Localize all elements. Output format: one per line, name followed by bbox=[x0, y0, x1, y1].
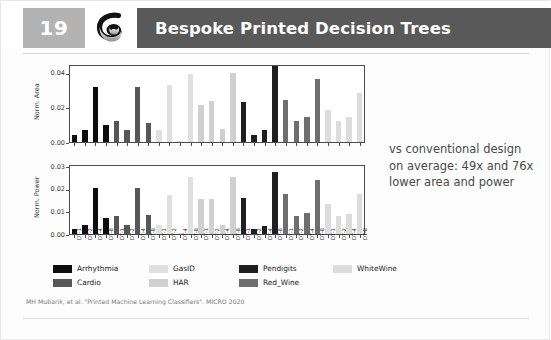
header-divider bbox=[23, 53, 529, 54]
legend-swatch bbox=[149, 279, 168, 287]
legend-label: Arrhythmia bbox=[77, 264, 118, 273]
x-tick-mark bbox=[317, 143, 318, 146]
x-tick-mark bbox=[254, 235, 255, 238]
legend-swatch bbox=[239, 279, 258, 287]
bar bbox=[315, 79, 320, 142]
y-tick-mark bbox=[66, 190, 69, 191]
bar bbox=[230, 73, 235, 142]
x-tick-mark bbox=[117, 143, 118, 146]
x-tick-mark bbox=[254, 143, 255, 146]
slide-header: 19 Bespoke Printed Decision Trees bbox=[1, 1, 551, 48]
y-tick-mark bbox=[66, 108, 69, 109]
x-tick-mark bbox=[265, 143, 266, 146]
bar bbox=[304, 117, 309, 142]
legend-item: Red_Wine bbox=[239, 277, 299, 288]
x-tick-mark bbox=[286, 235, 287, 238]
bar bbox=[188, 74, 193, 142]
x-tick-mark bbox=[180, 235, 181, 238]
x-tick-mark bbox=[74, 143, 75, 146]
bar bbox=[272, 172, 277, 234]
y-tick-mark bbox=[66, 235, 69, 236]
legend-label: GasID bbox=[173, 264, 195, 273]
x-tick-mark bbox=[85, 143, 86, 146]
x-tick-mark bbox=[95, 143, 96, 146]
x-tick-mark bbox=[222, 143, 223, 146]
charts-container: Norm. Area0.000.020.04Norm. Power0.000.0… bbox=[25, 61, 375, 261]
bar bbox=[325, 110, 330, 142]
bar bbox=[167, 85, 172, 142]
legend-item: GasID bbox=[149, 263, 195, 274]
x-tick-mark bbox=[328, 235, 329, 238]
x-tick-label: DT-2 bbox=[171, 228, 177, 240]
x-tick-mark bbox=[275, 143, 276, 146]
x-tick-mark bbox=[201, 235, 202, 238]
summary-note: vs conventional design on average: 49x a… bbox=[389, 141, 539, 191]
x-tick-mark bbox=[191, 235, 192, 238]
footer-divider bbox=[23, 318, 529, 319]
x-tick-mark bbox=[191, 143, 192, 146]
bar bbox=[357, 93, 362, 142]
legend-label: Cardio bbox=[77, 278, 101, 287]
legend-item: HAR bbox=[149, 277, 189, 288]
y-tick-mark bbox=[66, 74, 69, 75]
x-tick-mark bbox=[307, 143, 308, 146]
page-title: Bespoke Printed Decision Trees bbox=[155, 8, 545, 48]
y-tick-mark bbox=[66, 212, 69, 213]
legend-swatch bbox=[333, 265, 352, 273]
legend-item: Arrhythmia bbox=[53, 263, 118, 274]
legend-item: Pendigits bbox=[239, 263, 297, 274]
bar bbox=[146, 123, 151, 142]
x-tick-label: DT-8 bbox=[362, 228, 368, 240]
legend-label: HAR bbox=[173, 278, 189, 287]
bar bbox=[220, 129, 225, 142]
x-tick-mark bbox=[286, 143, 287, 146]
bar bbox=[230, 177, 235, 234]
bar bbox=[241, 102, 246, 142]
x-tick-mark bbox=[233, 235, 234, 238]
x-tick-mark bbox=[349, 143, 350, 146]
x-tick-mark bbox=[212, 235, 213, 238]
x-tick-mark bbox=[159, 143, 160, 146]
bar bbox=[251, 135, 256, 142]
x-tick-mark bbox=[127, 143, 128, 146]
x-tick-mark bbox=[159, 235, 160, 238]
bar bbox=[188, 177, 193, 234]
summary-note-line-3: lower area and power bbox=[389, 174, 539, 191]
bar bbox=[114, 121, 119, 142]
legend-label: Pendigits bbox=[263, 264, 297, 273]
legend-label: WhiteWine bbox=[357, 264, 397, 273]
x-tick-mark bbox=[106, 235, 107, 238]
slide-number: 19 bbox=[23, 8, 85, 48]
bar bbox=[346, 117, 351, 142]
x-tick-mark bbox=[169, 143, 170, 146]
legend-item: WhiteWine bbox=[333, 263, 397, 274]
x-tick-mark bbox=[138, 235, 139, 238]
footer-citation: MH Mubarik, et al. "Printed Machine Lear… bbox=[26, 298, 244, 305]
x-tick-mark bbox=[275, 235, 276, 238]
bar bbox=[198, 105, 203, 142]
y-axis-label: Norm. Area bbox=[33, 83, 41, 120]
legend-swatch bbox=[53, 279, 72, 287]
y-tick-mark bbox=[66, 167, 69, 168]
x-tick-mark bbox=[138, 143, 139, 146]
bar bbox=[72, 135, 77, 142]
y-tick-label: 0.00 bbox=[39, 140, 65, 147]
y-tick-label: 0.00 bbox=[39, 232, 65, 239]
x-tick-mark bbox=[212, 143, 213, 146]
bar bbox=[103, 125, 108, 142]
summary-note-line-2: on average: 49x and 76x bbox=[389, 158, 539, 175]
x-tick-mark bbox=[148, 143, 149, 146]
x-tick-mark bbox=[339, 143, 340, 146]
bar bbox=[93, 87, 98, 142]
x-tick-mark bbox=[106, 143, 107, 146]
y-tick-mark bbox=[66, 143, 69, 144]
y-tick-label: 0.02 bbox=[39, 186, 65, 193]
legend-item: Cardio bbox=[53, 277, 101, 288]
legend-swatch bbox=[239, 265, 258, 273]
x-tick-mark bbox=[127, 235, 128, 238]
x-tick-mark bbox=[360, 235, 361, 238]
y-tick-label: 0.01 bbox=[39, 209, 65, 216]
bar bbox=[315, 180, 320, 234]
x-tick-mark bbox=[117, 235, 118, 238]
x-tick-mark bbox=[180, 143, 181, 146]
